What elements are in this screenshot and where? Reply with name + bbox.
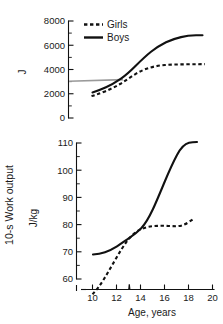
bottom-ytick-70: 70 xyxy=(62,246,73,257)
legend: Girls Boys xyxy=(84,19,129,43)
x-ticks xyxy=(93,285,213,290)
top-ytick-4000: 4000 xyxy=(44,64,65,75)
top-panel: 8000 6000 4000 2000 0 J Girls Boys xyxy=(17,15,205,123)
bottom-curve-girls xyxy=(93,219,194,294)
xtick-10: 10 xyxy=(87,292,98,303)
bottom-panel: 110 100 90 80 70 60 J/kg xyxy=(28,137,197,294)
top-curve-boys xyxy=(93,35,203,92)
legend-label-girls: Girls xyxy=(107,19,128,30)
age-13-marker xyxy=(128,284,130,289)
x-axis: 10 12 14 16 18 20 Age, years xyxy=(84,284,218,318)
xtick-20: 20 xyxy=(207,292,218,303)
bottom-ytick-80: 80 xyxy=(62,219,73,230)
xtick-18: 18 xyxy=(183,292,194,303)
y-axis-main-title: 10-s Work output xyxy=(3,165,15,245)
top-ytick-0: 0 xyxy=(60,112,65,123)
bottom-y-unit-label: J/kg xyxy=(28,209,39,227)
x-axis-title: Age, years xyxy=(128,307,176,318)
reference-line xyxy=(69,80,123,82)
top-ytick-6000: 6000 xyxy=(44,40,65,51)
top-y-major-ticks xyxy=(69,21,74,118)
bottom-ytick-110: 110 xyxy=(58,137,73,148)
figure-container: 8000 6000 4000 2000 0 J Girls Boys xyxy=(0,0,223,324)
xtick-12: 12 xyxy=(111,292,122,303)
axis-break-mark xyxy=(77,285,87,291)
bottom-ytick-100: 100 xyxy=(57,165,73,176)
xtick-14: 14 xyxy=(135,292,146,303)
bottom-curve-boys xyxy=(93,142,197,255)
top-ytick-2000: 2000 xyxy=(44,88,65,99)
xtick-16: 16 xyxy=(159,292,170,303)
bottom-ytick-60: 60 xyxy=(62,273,73,284)
work-output-chart: 8000 6000 4000 2000 0 J Girls Boys xyxy=(0,0,223,324)
bottom-ytick-90: 90 xyxy=(62,192,73,203)
top-y-unit-label: J xyxy=(17,70,28,75)
legend-label-boys: Boys xyxy=(107,32,129,43)
top-ytick-8000: 8000 xyxy=(44,15,65,26)
